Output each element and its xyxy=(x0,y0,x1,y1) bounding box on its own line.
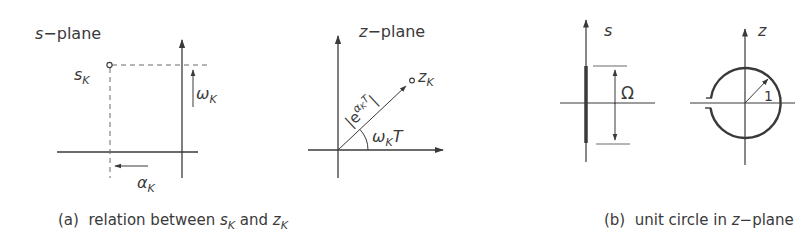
z-k-point xyxy=(410,78,415,83)
s-plane-diagram: s−plane sK ωK αK xyxy=(35,24,217,195)
z-axis-label: z xyxy=(757,21,767,40)
s-strip-diagram: Ω s xyxy=(560,20,655,162)
omega-k-t-label: ωKT xyxy=(372,127,404,149)
omega-range-label: Ω xyxy=(621,83,634,103)
alpha-k-label: αK xyxy=(137,173,156,195)
unit-circle-diagram: 1 z xyxy=(690,21,795,165)
caption-a: (a) relation between sK and zK xyxy=(58,211,289,232)
omega-k-label: ωK xyxy=(196,84,217,106)
s-axis-label: s xyxy=(604,21,612,40)
angle-arc xyxy=(360,130,368,151)
s-plane-title: s−plane xyxy=(35,24,101,43)
s-k-label: sK xyxy=(74,65,90,87)
radius-label: 1 xyxy=(764,88,773,104)
caption-b: (b) unit circle in z−plane xyxy=(604,211,794,229)
z-plane-diagram: z−plane zK |eαKT| ωKT xyxy=(308,22,443,178)
s-k-point xyxy=(107,62,112,67)
z-plane-title: z−plane xyxy=(358,22,425,41)
magnitude-label: |eαKT| xyxy=(339,90,381,131)
figure-canvas: s−plane sK ωK αK z−plane zK |eαKT| ωKT xyxy=(0,0,806,249)
z-k-label: zK xyxy=(417,67,434,89)
